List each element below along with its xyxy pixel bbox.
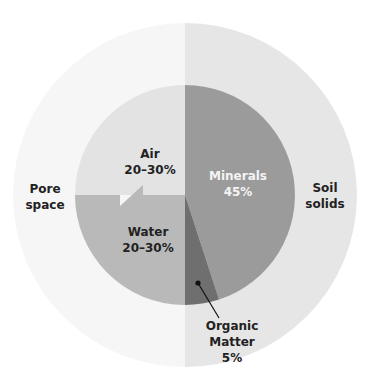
label-air-value: 20–30% — [110, 162, 190, 178]
label-soil-line1: Soil — [292, 180, 358, 196]
label-organic-name-2: Matter — [192, 334, 272, 350]
label-soil-line2: solids — [292, 196, 358, 212]
label-pore-line1: Pore — [12, 181, 78, 197]
organic-leader-dot — [195, 280, 200, 285]
label-water-name: Water — [108, 224, 188, 240]
label-air: Air 20–30% — [110, 146, 190, 178]
label-organic-matter: Organic Matter 5% — [192, 318, 272, 366]
label-minerals-value: 45% — [198, 184, 278, 200]
label-soil-solids: Soil solids — [292, 180, 358, 212]
label-pore-line2: space — [12, 197, 78, 213]
label-pore-space: Pore space — [12, 181, 78, 213]
label-minerals: Minerals 45% — [198, 168, 278, 200]
label-water-value: 20–30% — [108, 240, 188, 256]
label-organic-value: 5% — [192, 350, 272, 366]
label-air-name: Air — [110, 146, 190, 162]
label-minerals-name: Minerals — [198, 168, 278, 184]
label-organic-name-1: Organic — [192, 318, 272, 334]
label-water: Water 20–30% — [108, 224, 188, 256]
